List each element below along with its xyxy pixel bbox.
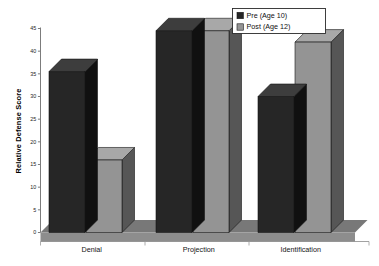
bar-front-Pre (Age 10)	[49, 72, 85, 233]
y-axis-tick-label: 5	[33, 207, 36, 213]
bar-side-Post (Age 12)	[122, 147, 135, 232]
y-axis-tick-label: 10	[30, 184, 36, 190]
legend-label: Post (Age 12)	[247, 22, 291, 31]
floor-front	[41, 233, 356, 242]
chart-canvas: 051015202530354045Relative Defense Score…	[0, 0, 379, 266]
y-axis-tick-label: 25	[30, 116, 36, 122]
y-axis-tick-label: 45	[30, 25, 36, 31]
y-axis-tick-label: 0	[33, 229, 36, 235]
bar-side-Post (Age 12)	[229, 18, 242, 232]
x-axis-category-label: Identification	[281, 245, 321, 254]
y-axis-tick-label: 20	[30, 139, 36, 145]
x-axis-category-label: Denial	[82, 245, 103, 254]
legend-label: Pre (Age 10)	[247, 11, 288, 20]
bar-side-Pre (Age 10)	[192, 18, 205, 232]
x-axis-category-label: Projection	[183, 245, 215, 254]
bar-front-Pre (Age 10)	[258, 97, 294, 233]
bar-side-Post (Age 12)	[331, 30, 344, 233]
legend-swatch	[237, 12, 243, 18]
y-axis-tick-label: 15	[30, 161, 36, 167]
y-axis-title: Relative Defense Score	[14, 88, 23, 173]
bar-front-Pre (Age 10)	[156, 31, 192, 233]
bar-chart-figure: 051015202530354045Relative Defense Score…	[0, 0, 379, 266]
y-axis-tick-label: 30	[30, 93, 36, 99]
legend-swatch	[237, 24, 243, 30]
bar-side-Pre (Age 10)	[85, 59, 98, 232]
bar-side-Pre (Age 10)	[294, 84, 307, 233]
y-axis-tick-label: 35	[30, 71, 36, 77]
y-axis-tick-label: 40	[30, 48, 36, 54]
